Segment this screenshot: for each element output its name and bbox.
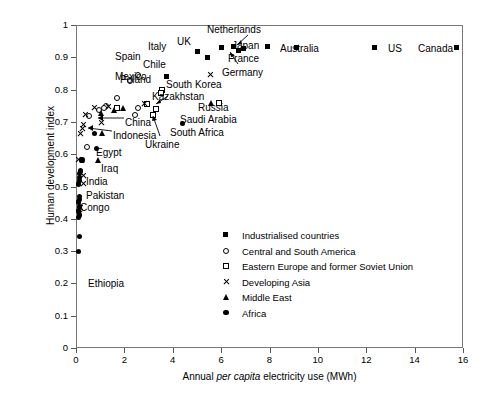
x-tick-16 <box>463 348 464 353</box>
legend-label: Industrialised countries <box>242 230 339 241</box>
y-tick-0.3 <box>71 251 76 252</box>
x-tick-14 <box>415 348 416 353</box>
x-tick-label-8: 8 <box>255 354 285 365</box>
point-label-france: France <box>228 53 259 64</box>
legend-item-developing-asia: Developing Asia <box>222 275 413 291</box>
x-tick-0 <box>76 348 77 353</box>
x-tick-label-10: 10 <box>303 354 333 365</box>
y-tick-0.8 <box>71 90 76 91</box>
point-label-india: India <box>86 176 108 187</box>
x-tick-label-16: 16 <box>448 354 478 365</box>
point-label-pakistan: Pakistan <box>86 190 124 201</box>
point-label-china: China <box>125 117 151 128</box>
point-label-egypt: Egypt <box>96 147 122 158</box>
point-label-netherlands: Netherlands <box>207 24 261 35</box>
point-label-australia: Australia <box>280 43 319 54</box>
point-label-russia: Russia <box>198 102 229 113</box>
legend-item-africa: Africa <box>222 306 413 322</box>
point-label-iraq: Iraq <box>101 163 118 174</box>
legend: Industrialised countriesCentral and Sout… <box>222 228 413 321</box>
legend-label: Africa <box>242 308 266 319</box>
x-axis-label: Annual per capita electricity use (MWh) <box>76 371 463 382</box>
y-axis-label: Human development index <box>45 36 56 296</box>
legend-label: Developing Asia <box>242 277 310 288</box>
point-label-spain: Spain <box>115 51 141 62</box>
y-tick-1 <box>71 25 76 26</box>
scatter-chart-figure: 0246810121416 00.10.20.30.40.50.60.70.80… <box>0 0 491 406</box>
y-tick-0.5 <box>71 187 76 188</box>
y-tick-0 <box>71 348 76 349</box>
point-label-chile: Chile <box>143 59 166 70</box>
x-tick-2 <box>124 348 125 353</box>
x-tick-6 <box>221 348 222 353</box>
point-label-germany: Germany <box>222 67 263 78</box>
point-label-poland: Poland <box>120 74 151 85</box>
y-tick-0.9 <box>71 57 76 58</box>
legend-item-eastern-europe-and-former-soviet-union: Eastern Europe and former Soviet Union <box>222 259 413 275</box>
point-label-saudi-arabia: Saudi Arabia <box>180 114 237 125</box>
point-label-us: US <box>388 43 402 54</box>
y-tick-0.1 <box>71 316 76 317</box>
y-tick-label-1: 1 <box>36 19 68 30</box>
legend-item-middle-east: Middle East <box>222 290 413 306</box>
y-tick-0.2 <box>71 283 76 284</box>
point-label-japan: Japan <box>232 40 259 51</box>
x-tick-label-4: 4 <box>158 354 188 365</box>
x-axis-label-italic: per capita <box>216 371 260 382</box>
y-tick-0.4 <box>71 219 76 220</box>
x-axis-label-post: electricity use (MWh) <box>260 371 356 382</box>
x-tick-label-12: 12 <box>351 354 381 365</box>
point-label-kazakhstan: Kazakhstan <box>152 91 204 102</box>
point-label-south-africa: South Africa <box>170 127 224 138</box>
legend-label: Central and South America <box>242 246 356 257</box>
point-label-congo: Congo <box>80 202 109 213</box>
x-tick-10 <box>318 348 319 353</box>
point-label-south-korea: South Korea <box>166 79 222 90</box>
legend-label: Middle East <box>242 292 292 303</box>
point-label-indonesia: Indonesia <box>113 130 156 141</box>
point-label-uk: UK <box>177 36 191 47</box>
x-tick-label-0: 0 <box>61 354 91 365</box>
legend-item-industrialised-countries: Industrialised countries <box>222 228 413 244</box>
legend-item-central-and-south-america: Central and South America <box>222 244 413 260</box>
point-label-italy: Italy <box>148 41 166 52</box>
y-tick-0.6 <box>71 154 76 155</box>
x-tick-12 <box>366 348 367 353</box>
x-axis-label-pre: Annual <box>183 371 217 382</box>
x-tick-label-14: 14 <box>400 354 430 365</box>
x-tick-8 <box>270 348 271 353</box>
x-tick-4 <box>173 348 174 353</box>
point-label-canada: Canada <box>418 43 453 54</box>
x-tick-label-2: 2 <box>109 354 139 365</box>
legend-label: Eastern Europe and former Soviet Union <box>242 261 413 272</box>
y-tick-label-0.1: 0.1 <box>36 310 68 321</box>
y-tick-0.7 <box>71 122 76 123</box>
y-tick-label-0: 0 <box>36 342 68 353</box>
x-tick-label-6: 6 <box>206 354 236 365</box>
point-label-ethiopia: Ethiopia <box>88 278 124 289</box>
